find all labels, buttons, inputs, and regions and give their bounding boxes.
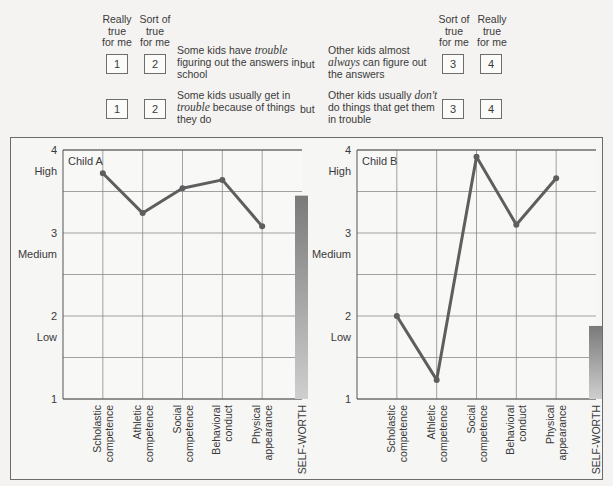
data-point	[513, 222, 519, 228]
y-tick-label: 4	[345, 144, 351, 156]
y-tick-label: 3	[51, 227, 57, 239]
x-axis-label: Scholasticcompetence	[91, 405, 115, 462]
y-tick-label: 1	[51, 393, 57, 405]
chart-child-a: 1234LowMediumHighChild AScholasticcompet…	[18, 144, 308, 474]
x-axis-label: Athleticcompetence	[425, 405, 449, 462]
self-perception-profiles: 1234LowMediumHighChild AScholasticcompet…	[0, 0, 613, 486]
self-worth-bar	[589, 326, 602, 399]
x-axis-label: Athleticcompetence	[131, 405, 155, 462]
data-point	[100, 170, 106, 176]
data-point	[140, 210, 146, 216]
y-tick-label: 3	[345, 227, 351, 239]
x-axis-label: Socialcompetence	[171, 405, 195, 462]
data-point	[219, 177, 225, 183]
chart-child-b: 1234LowMediumHighChild BScholasticcompet…	[312, 144, 602, 474]
y-tick-label: 2	[51, 310, 57, 322]
self-worth-bar	[295, 196, 308, 399]
y-tick-label: 2	[345, 310, 351, 322]
x-axis-label: SELF-WORTH	[296, 405, 308, 474]
y-level-label: Low	[37, 331, 57, 343]
x-axis-label: Socialcompetence	[465, 405, 489, 462]
x-axis-label: Behavioralconduct	[504, 405, 528, 455]
y-tick-label: 1	[345, 393, 351, 405]
y-level-label: Medium	[312, 248, 351, 260]
y-level-label: High	[34, 165, 57, 177]
y-level-label: Medium	[18, 248, 57, 260]
y-level-label: Low	[331, 331, 351, 343]
data-point	[474, 154, 480, 160]
data-point	[259, 223, 265, 229]
x-axis-label: Physicalappearance	[544, 405, 568, 461]
data-point	[180, 185, 186, 191]
chart-title: Child B	[362, 155, 397, 167]
data-point	[434, 377, 440, 383]
data-point	[553, 175, 559, 181]
chart-title: Child A	[68, 155, 104, 167]
x-axis-label: Behavioralconduct	[210, 405, 234, 455]
data-point	[394, 313, 400, 319]
y-level-label: High	[328, 165, 351, 177]
y-tick-label: 4	[51, 144, 57, 156]
x-axis-label: SELF-WORTH	[590, 405, 602, 474]
x-axis-label: Physicalappearance	[250, 405, 274, 461]
x-axis-label: Scholasticcompetence	[385, 405, 409, 462]
